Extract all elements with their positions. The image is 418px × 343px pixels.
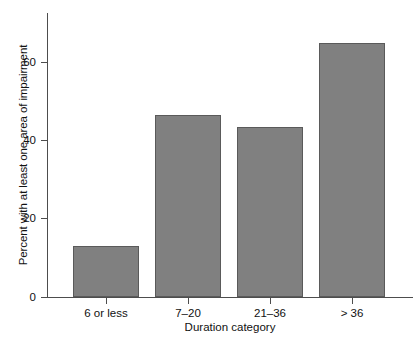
y-tick-1 bbox=[41, 218, 48, 219]
bar-chart-figure: Percent with at least one area of impair… bbox=[0, 0, 418, 343]
x-tick-label-0: 6 or less bbox=[61, 308, 151, 320]
x-tick-0 bbox=[106, 298, 107, 304]
x-axis-line bbox=[47, 297, 413, 298]
x-tick-label-1: 7–20 bbox=[143, 308, 233, 320]
y-tick-label-0: 0 bbox=[0, 292, 36, 304]
x-tick-label-3: > 36 bbox=[307, 308, 397, 320]
y-axis-line bbox=[47, 13, 48, 298]
x-tick-label-2: 21–36 bbox=[225, 308, 315, 320]
bar-1 bbox=[155, 115, 221, 297]
y-tick-3 bbox=[41, 62, 48, 63]
x-axis-title: Duration category bbox=[47, 322, 413, 334]
bar-2 bbox=[237, 127, 303, 297]
x-tick-1 bbox=[188, 298, 189, 304]
bar-0 bbox=[73, 246, 139, 297]
y-tick-0 bbox=[41, 297, 48, 298]
y-tick-2 bbox=[41, 140, 48, 141]
y-tick-label-3: 60 bbox=[0, 57, 36, 69]
x-tick-2 bbox=[270, 298, 271, 304]
bar-3 bbox=[319, 43, 385, 297]
y-axis-title: Percent with at least one area of impair… bbox=[14, 10, 32, 300]
y-tick-label-2: 40 bbox=[0, 135, 36, 147]
x-tick-3 bbox=[352, 298, 353, 304]
y-tick-label-1: 20 bbox=[0, 213, 36, 225]
